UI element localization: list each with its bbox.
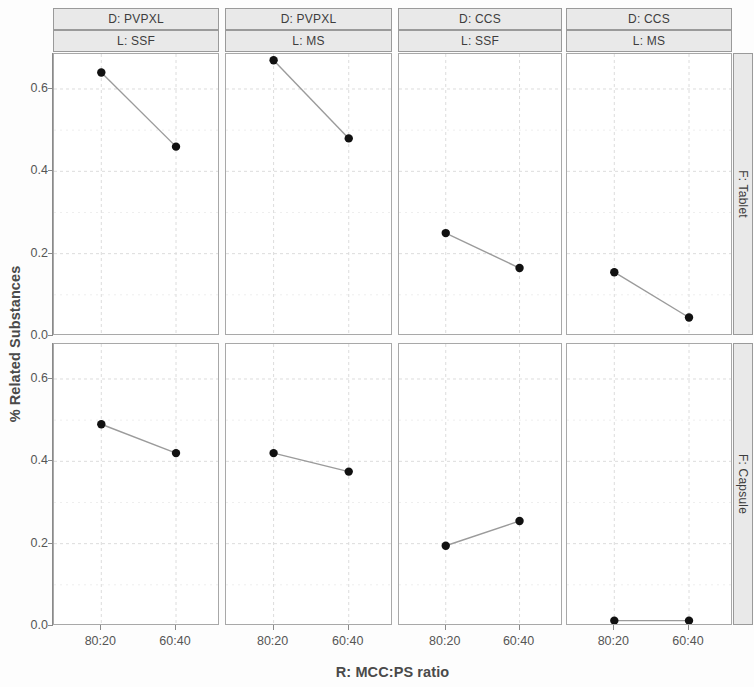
data-point-marker[interactable] — [442, 229, 450, 237]
y-tick-label: 0.6 — [4, 371, 48, 385]
panel-canvas — [226, 344, 391, 624]
data-point-marker[interactable] — [269, 56, 277, 64]
series-line — [101, 424, 176, 453]
column-strip-l-label: L: MS — [633, 34, 665, 48]
x-tick-label: 60:40 — [658, 634, 718, 648]
panel-canvas — [226, 54, 391, 334]
x-axis-title: R: MCC:PS ratio — [53, 664, 732, 686]
data-point-marker[interactable] — [685, 616, 693, 624]
data-point-marker[interactable] — [442, 542, 450, 550]
row-strip-label: F: Tablet — [736, 170, 750, 218]
y-axis-line — [52, 343, 53, 625]
panel-FCapsule-1 — [225, 343, 392, 625]
x-tick-mark — [613, 625, 614, 630]
trellis-chart: % Related Substances R: MCC:PS ratio D: … — [0, 0, 754, 687]
x-tick-mark — [519, 625, 520, 630]
column-strip-d-1: D: PVPXL — [225, 8, 392, 30]
column-strip-d-0: D: PVPXL — [53, 8, 219, 30]
data-point-marker[interactable] — [515, 517, 523, 525]
y-tick-mark — [48, 335, 53, 336]
panel-FCapsule-2 — [398, 343, 562, 625]
y-axis-title-text: % Related Substances — [7, 265, 23, 422]
panel-FCapsule-0 — [53, 343, 219, 625]
panel-FTablet-3 — [566, 53, 732, 335]
panel-canvas — [54, 344, 218, 624]
x-tick-label: 60:40 — [318, 634, 378, 648]
row-strip-label: F: Capsule — [736, 454, 750, 514]
panel-canvas — [399, 344, 561, 624]
data-point-marker[interactable] — [172, 142, 180, 150]
series-line — [446, 521, 520, 546]
column-strip-l-label: L: SSF — [461, 34, 499, 48]
y-tick-label: 0.0 — [4, 328, 48, 342]
x-tick-label: 60:40 — [489, 634, 549, 648]
series-line — [614, 272, 689, 317]
data-point-marker[interactable] — [610, 268, 618, 276]
x-tick-label: 80:20 — [70, 634, 130, 648]
data-point-marker[interactable] — [172, 449, 180, 457]
column-strip-d-label: D: PVPXL — [108, 12, 164, 26]
panel-FTablet-1 — [225, 53, 392, 335]
y-tick-label: 0.2 — [4, 246, 48, 260]
data-point-marker[interactable] — [685, 313, 693, 321]
panel-canvas — [54, 54, 218, 334]
row-strip-0: F: Tablet — [733, 53, 753, 335]
column-strip-d-label: D: CCS — [628, 12, 670, 26]
x-axis-title-text: R: MCC:PS ratio — [336, 664, 449, 680]
y-tick-label: 0.0 — [4, 618, 48, 632]
column-strip-d-3: D: CCS — [566, 8, 732, 30]
panel-canvas — [567, 54, 731, 334]
panel-canvas — [567, 344, 731, 624]
column-strip-d-2: D: CCS — [398, 8, 562, 30]
column-strip-l-label: L: SSF — [117, 34, 155, 48]
row-strip-1: F: Capsule — [733, 343, 753, 625]
series-line — [274, 60, 349, 138]
data-point-marker[interactable] — [97, 420, 105, 428]
y-tick-label: 0.2 — [4, 536, 48, 550]
column-strip-d-label: D: PVPXL — [281, 12, 337, 26]
x-tick-label: 80:20 — [243, 634, 303, 648]
x-tick-mark — [688, 625, 689, 630]
column-strip-d-label: D: CCS — [459, 12, 501, 26]
data-point-marker[interactable] — [97, 68, 105, 76]
x-tick-mark — [348, 625, 349, 630]
data-point-marker[interactable] — [345, 134, 353, 142]
column-strip-l-0: L: SSF — [53, 30, 219, 52]
data-point-marker[interactable] — [515, 264, 523, 272]
panel-FTablet-2 — [398, 53, 562, 335]
x-tick-label: 80:20 — [583, 634, 643, 648]
y-tick-mark — [48, 625, 53, 626]
data-point-marker[interactable] — [610, 616, 618, 624]
series-line — [274, 453, 349, 472]
x-tick-mark — [100, 625, 101, 630]
y-axis-title: % Related Substances — [0, 0, 30, 687]
series-line — [101, 73, 176, 147]
x-tick-mark — [175, 625, 176, 630]
column-strip-l-1: L: MS — [225, 30, 392, 52]
series-line — [446, 233, 520, 268]
panel-FTablet-0 — [53, 53, 219, 335]
column-strip-l-2: L: SSF — [398, 30, 562, 52]
column-strip-l-3: L: MS — [566, 30, 732, 52]
data-point-marker[interactable] — [345, 467, 353, 475]
x-tick-mark — [273, 625, 274, 630]
y-tick-label: 0.6 — [4, 81, 48, 95]
y-tick-label: 0.4 — [4, 453, 48, 467]
panel-canvas — [399, 54, 561, 334]
data-point-marker[interactable] — [269, 449, 277, 457]
x-tick-label: 80:20 — [415, 634, 475, 648]
x-tick-mark — [445, 625, 446, 630]
column-strip-l-label: L: MS — [292, 34, 324, 48]
x-tick-label: 60:40 — [145, 634, 205, 648]
y-axis-line — [52, 53, 53, 335]
y-tick-label: 0.4 — [4, 163, 48, 177]
panel-FCapsule-3 — [566, 343, 732, 625]
